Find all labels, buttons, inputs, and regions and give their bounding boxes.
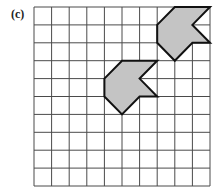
grid-figure (0, 0, 221, 194)
